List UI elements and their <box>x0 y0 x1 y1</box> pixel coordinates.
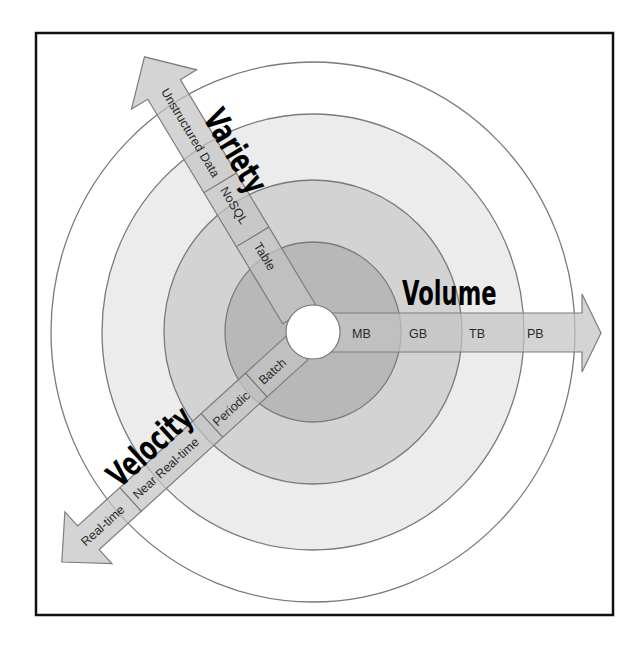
big-data-3v-diagram: Volume MB GB TB PB Table NoSQL Unstructu… <box>0 0 643 647</box>
volume-level-gb: GB <box>409 327 427 341</box>
center-hole <box>286 305 340 359</box>
volume-level-tb: TB <box>469 327 485 341</box>
volume-level-mb: MB <box>352 327 371 341</box>
volume-title: Volume <box>402 275 497 314</box>
volume-level-pb: PB <box>527 327 544 341</box>
